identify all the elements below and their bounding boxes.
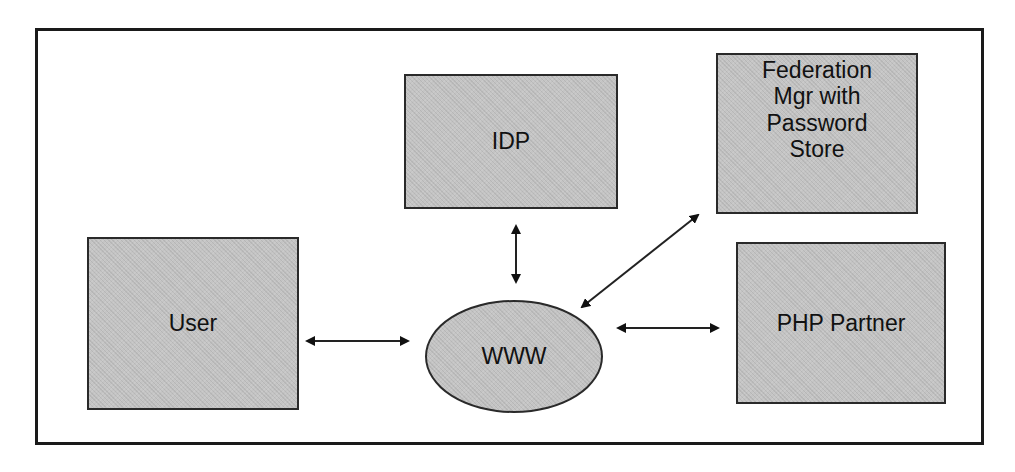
arrow-federation-www [582,215,698,307]
connector-arrows [0,0,1015,472]
